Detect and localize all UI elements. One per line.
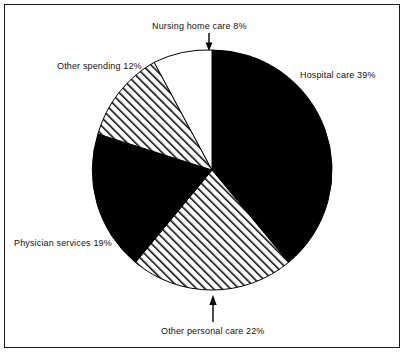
- pie-chart-svg: [0, 0, 406, 354]
- slice-label-physician-services: Physician services 19%: [14, 238, 112, 249]
- slice-label-nursing-home-care: Nursing home care 8%: [152, 21, 247, 32]
- slice-label-hospital-care: Hospital care 39%: [300, 70, 376, 81]
- leader-arrow-up-icon: [209, 295, 216, 322]
- slice-label-other-spending: Other spending 12%: [57, 61, 142, 72]
- pie-chart-figure: Nursing home care 8% Other spending 12% …: [0, 0, 406, 354]
- slice-label-other-personal-care: Other personal care 22%: [161, 326, 265, 337]
- leader-arrow-down-icon: [206, 33, 213, 51]
